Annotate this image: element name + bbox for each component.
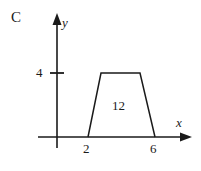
x-axis-label: x xyxy=(176,116,182,129)
x-tick-label-6: 6 xyxy=(150,142,157,155)
part-label: C xyxy=(11,10,21,25)
y-tick-label-4: 4 xyxy=(36,66,43,79)
trapezoid-area-label: 12 xyxy=(112,99,125,112)
x-tick-label-2: 2 xyxy=(83,142,90,155)
figure-container: C y x 4 2 6 12 xyxy=(0,0,201,171)
coordinate-plane-graphic xyxy=(0,0,201,171)
y-axis-arrowhead-icon xyxy=(53,13,62,25)
x-axis-arrowhead-icon xyxy=(180,133,192,142)
y-axis-label: y xyxy=(62,16,68,29)
